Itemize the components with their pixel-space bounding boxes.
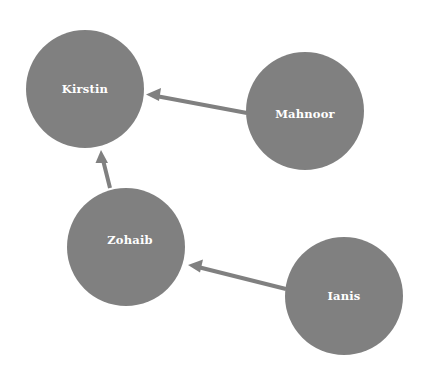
node-label: Ianis bbox=[327, 289, 360, 303]
node-label: Zohaib bbox=[107, 233, 153, 247]
node-layer: Kirstin Mahnoor Zohaib Ianis bbox=[26, 30, 403, 355]
edge-line bbox=[103, 160, 110, 188]
edge-ianis-to-zohaib[interactable] bbox=[188, 260, 286, 290]
arrowhead-icon bbox=[96, 150, 109, 163]
arrowhead-icon bbox=[146, 88, 161, 101]
node-label: Mahnoor bbox=[275, 107, 335, 121]
edge-mahnoor-to-kirstin[interactable] bbox=[146, 88, 247, 113]
node-zohaib[interactable]: Zohaib bbox=[67, 188, 185, 306]
edge-zohaib-to-kirstin[interactable] bbox=[96, 150, 111, 188]
edge-line bbox=[198, 267, 286, 289]
edge-line bbox=[156, 96, 247, 113]
node-mahnoor[interactable]: Mahnoor bbox=[246, 52, 364, 170]
node-kirstin[interactable]: Kirstin bbox=[26, 30, 144, 148]
node-label: Kirstin bbox=[62, 82, 109, 96]
node-circle bbox=[67, 188, 185, 306]
arrowhead-icon bbox=[188, 260, 203, 273]
network-diagram: Kirstin Mahnoor Zohaib Ianis bbox=[0, 0, 423, 378]
graph-canvas: Kirstin Mahnoor Zohaib Ianis bbox=[0, 0, 423, 378]
node-ianis[interactable]: Ianis bbox=[285, 237, 403, 355]
